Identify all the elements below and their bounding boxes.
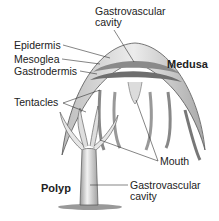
tentacles-label: Tentacles (14, 97, 58, 108)
mesoglea-label: Mesoglea (14, 54, 60, 65)
gastrovascular-cavity-polyp-label: Gastrovascular cavity (130, 180, 201, 202)
polyp-illustration (58, 106, 122, 210)
gastrovascular-cavity-medusa-label: Gastrovascular cavity (95, 6, 166, 28)
medusa-label: Medusa (167, 59, 208, 70)
polyp-label: Polyp (41, 183, 71, 194)
mouth-label: Mouth (160, 156, 189, 167)
epidermis-label: Epidermis (14, 40, 61, 51)
gastrodermis-label: Gastrodermis (14, 66, 77, 77)
